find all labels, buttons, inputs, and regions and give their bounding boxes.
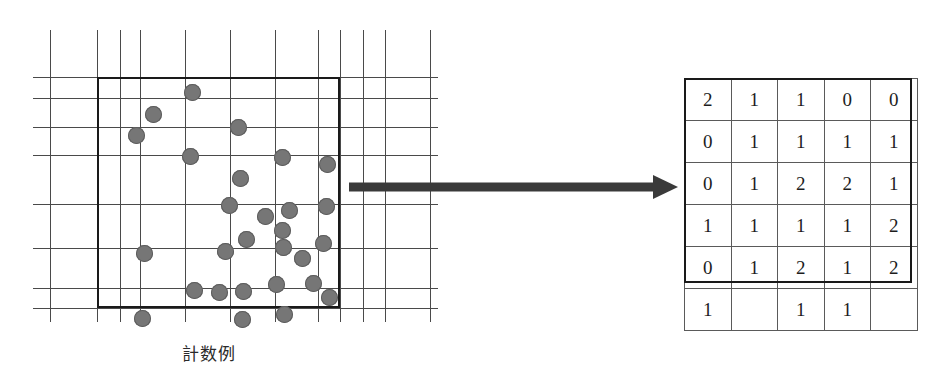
table-cell: 1	[778, 205, 825, 247]
table-cell: 2	[778, 163, 825, 205]
counted-dot	[186, 282, 203, 299]
table-cell: 1	[824, 247, 871, 289]
counted-dot	[182, 148, 199, 165]
table-cell: 1	[731, 205, 778, 247]
table-cell	[871, 289, 918, 331]
table-row: 01111	[685, 121, 918, 163]
counted-dot	[268, 276, 285, 293]
counted-dot	[145, 106, 162, 123]
count-table: 2110001111012211111201212111	[684, 78, 918, 331]
counted-dot	[230, 119, 247, 136]
table-cell: 0	[871, 79, 918, 121]
table-cell: 1	[778, 289, 825, 331]
counted-dot	[235, 283, 252, 300]
table-cell: 2	[871, 247, 918, 289]
table-cell: 1	[824, 205, 871, 247]
grid-line-vertical	[50, 30, 51, 322]
table-cell: 1	[731, 163, 778, 205]
counted-dot	[315, 235, 332, 252]
counted-dot	[276, 306, 293, 323]
counted-dot	[184, 84, 201, 101]
table-cell: 1	[871, 121, 918, 163]
table-cell: 1	[685, 205, 732, 247]
counted-dot	[232, 170, 249, 187]
counted-dot	[234, 311, 251, 328]
counted-dot	[134, 310, 151, 327]
counted-dot	[274, 222, 291, 239]
counted-dot	[319, 156, 336, 173]
table-cell: 1	[778, 79, 825, 121]
table-cell: 1	[685, 289, 732, 331]
table-row: 01212	[685, 247, 918, 289]
table-cell: 1	[824, 121, 871, 163]
caption-counting-example: 計数例	[182, 340, 236, 365]
table-cell: 1	[731, 247, 778, 289]
table-cell: 1	[824, 289, 871, 331]
table-row: 111	[685, 289, 918, 331]
table-cell: 1	[731, 121, 778, 163]
region-of-interest-rectangle	[97, 77, 340, 308]
counted-dot	[128, 127, 145, 144]
grid-line-vertical	[340, 30, 341, 322]
table-cell: 0	[685, 163, 732, 205]
table-cell	[731, 289, 778, 331]
counting-figure: 計数例 2110001111012211111201212111 計算例	[0, 0, 941, 376]
count-table-body: 2110001111012211111201212111	[685, 79, 918, 331]
counted-dot	[257, 208, 274, 225]
table-cell: 2	[685, 79, 732, 121]
calculation-example-panel: 2110001111012211111201212111 計算例	[470, 0, 941, 376]
counted-dot	[238, 231, 255, 248]
counted-dot	[274, 149, 291, 166]
counted-dot	[281, 202, 298, 219]
counted-dot	[136, 245, 153, 262]
counted-dot	[217, 243, 234, 260]
table-cell: 2	[824, 163, 871, 205]
table-cell: 0	[685, 121, 732, 163]
table-cell: 2	[871, 205, 918, 247]
grid-line-horizontal	[33, 308, 438, 309]
table-cell: 0	[685, 247, 732, 289]
table-cell: 0	[824, 79, 871, 121]
table-row: 01221	[685, 163, 918, 205]
counted-dot	[211, 284, 228, 301]
table-cell: 1	[731, 79, 778, 121]
table-cell: 1	[778, 121, 825, 163]
counted-dot	[294, 250, 311, 267]
table-cell: 1	[871, 163, 918, 205]
table-row: 21100	[685, 79, 918, 121]
table-row: 11112	[685, 205, 918, 247]
counted-dot	[321, 289, 338, 306]
counted-dot	[318, 198, 335, 215]
counted-dot	[275, 239, 292, 256]
counted-dot	[305, 275, 322, 292]
table-cell: 2	[778, 247, 825, 289]
counted-dot	[221, 197, 238, 214]
